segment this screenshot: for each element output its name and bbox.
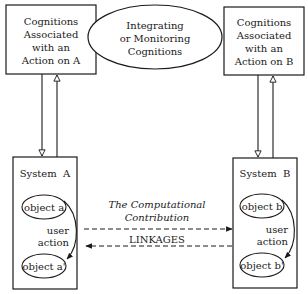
cognitions-a-line-2: Associated [23,29,79,40]
integrating-cognitions-ellipse: Integrating or Monitoring Cognitions [88,5,222,69]
system-a-title: System A [20,168,71,179]
linkages-section: The Computational Contribution LINKAGES [84,199,232,246]
object-a-prime-label: object a' [23,261,66,272]
system-b-title: System B [240,168,291,179]
ellipse-line-2: or Monitoring [120,33,191,44]
user-action-a-line-1: user [47,225,69,236]
system-b-box: System B object b object b' user action [233,158,297,288]
object-a-label: object a [24,202,64,213]
ellipse-line-3: Cognitions [128,46,183,57]
cognitions-b-line-4: Action on B [234,56,294,67]
object-b-label: object b [242,201,283,212]
vertical-arrows-b [258,75,273,158]
cognitions-a-line-4: Action on A [21,55,81,66]
cognitions-b-line-2: Associated [236,30,292,41]
user-action-a-line-2: action [38,237,70,248]
cognitions-a-box: Cognitions Associated with an Action on … [6,5,96,74]
object-b-prime-label: object b' [240,260,283,271]
cognitions-a-line-1: Cognitions [24,16,79,27]
system-a-box: System A object a object a' user action [13,157,77,289]
linkages-label: LINKAGES [129,234,185,245]
cognitions-a-line-3: with an [32,42,70,53]
cognitions-b-box: Cognitions Associated with an Action on … [224,7,304,75]
vertical-arrows-a [42,74,57,157]
ellipse-line-1: Integrating [126,20,184,31]
cognitions-b-line-1: Cognitions [237,17,292,28]
contribution-line-1: The Computational [108,199,205,210]
contribution-line-2: Contribution [125,212,190,223]
user-action-b-line-2: action [257,236,289,247]
diagram-canvas: Cognitions Associated with an Action on … [0,0,308,294]
user-action-b-line-1: user [266,224,288,235]
cognitions-b-line-3: with an [245,43,283,54]
